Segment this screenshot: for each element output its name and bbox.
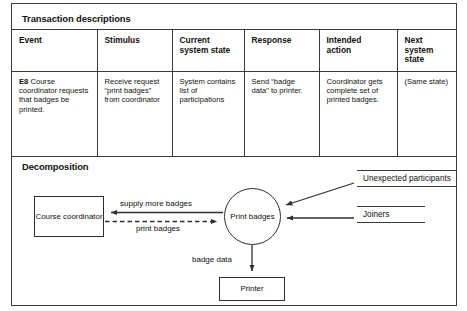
column-header-event: Event: [12, 30, 97, 71]
cell-response: Send “badge data” to printer.: [244, 71, 319, 156]
column-header-response-label: Response: [252, 35, 292, 45]
table-row: E8 Course coordinator requests that badg…: [12, 71, 456, 156]
cell-stimulus: Receive request “print badges” from coor…: [97, 71, 172, 156]
node-printer-label: Printer: [240, 284, 263, 294]
entity-joiners: Joiners: [357, 206, 425, 223]
column-header-next-system-state-line1: Next: [405, 35, 423, 45]
cell-current-system-state: System contains list of participations: [172, 71, 244, 156]
cell-event: E8 Course coordinator requests that badg…: [12, 71, 97, 156]
table-header-row: Event Stimulus Current system state Resp…: [12, 30, 456, 71]
column-header-next-system-state: Next system state: [397, 30, 456, 71]
column-header-intended-action: Intended action: [319, 30, 397, 71]
column-header-intended-action-line1: Intended: [327, 35, 362, 45]
flow-label-supply-more-badges: supply more badges: [120, 199, 192, 209]
column-header-current-system-state: Current system state: [172, 30, 244, 71]
column-header-response: Response: [244, 30, 319, 71]
flow-label-badge-data: badge data: [192, 255, 232, 265]
column-header-event-label: Event: [19, 35, 42, 45]
column-header-stimulus: Stimulus: [97, 30, 172, 71]
transaction-descriptions-table: Event Stimulus Current system state Resp…: [12, 29, 456, 157]
flow-unexpected-participants: [286, 183, 354, 205]
column-header-stimulus-label: Stimulus: [105, 35, 140, 45]
node-course-coordinator: Course coordinator: [34, 196, 104, 237]
cell-next-system-state: (Same state): [397, 71, 456, 156]
cell-intended-action: Coordinator gets complete set of printed…: [319, 71, 397, 156]
entity-unexpected-participants: Unexpected participants: [357, 170, 457, 187]
node-course-coordinator-label: Course coordinator: [35, 212, 102, 222]
node-print-badges-process: Print badges: [224, 188, 281, 245]
node-print-badges-label: Print badges: [230, 212, 274, 222]
transaction-descriptions-title: Transaction descriptions: [22, 13, 131, 24]
flow-label-print-badges: print badges: [136, 224, 180, 234]
column-header-current-system-state-line1: Current: [180, 35, 210, 45]
column-header-intended-action-line2: action: [327, 45, 352, 55]
column-header-current-system-state-line2: system state: [180, 45, 231, 55]
decomposition-diagram: Course coordinator Print badges Printer …: [12, 152, 456, 306]
figure-frame: Transaction descriptions Event Stimulus: [11, 3, 457, 306]
column-header-next-system-state-line2: system state: [405, 45, 434, 65]
event-text: Course coordinator requests that badges …: [19, 77, 88, 114]
node-printer: Printer: [219, 277, 285, 301]
event-id: E8: [19, 77, 28, 86]
